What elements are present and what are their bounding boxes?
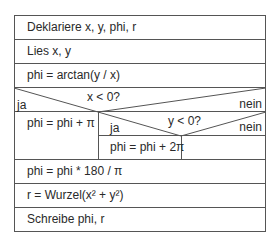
inner-yes-label: ja: [110, 121, 119, 135]
statement-degrees: phi = phi * 180 / π: [27, 164, 122, 178]
statement-arctan: phi = arctan(y / x): [27, 68, 120, 82]
statement-read: Lies x, y: [27, 44, 71, 58]
outer-no-label: nein: [239, 97, 262, 111]
statement-write: Schreibe phi, r: [27, 212, 104, 226]
statement-declare: Deklariere x, y, phi, r: [27, 20, 136, 34]
statement-add-pi: phi = phi + π: [27, 116, 95, 130]
outer-yes-label: ja: [17, 98, 26, 112]
outer-condition: x < 0?: [87, 90, 120, 104]
inner-condition: y < 0?: [168, 114, 201, 128]
statement-add-2pi: phi = phi + 2π: [110, 140, 184, 154]
statement-radius: r = Wurzel(x² + y²): [27, 188, 123, 202]
inner-no-label: nein: [239, 120, 262, 134]
